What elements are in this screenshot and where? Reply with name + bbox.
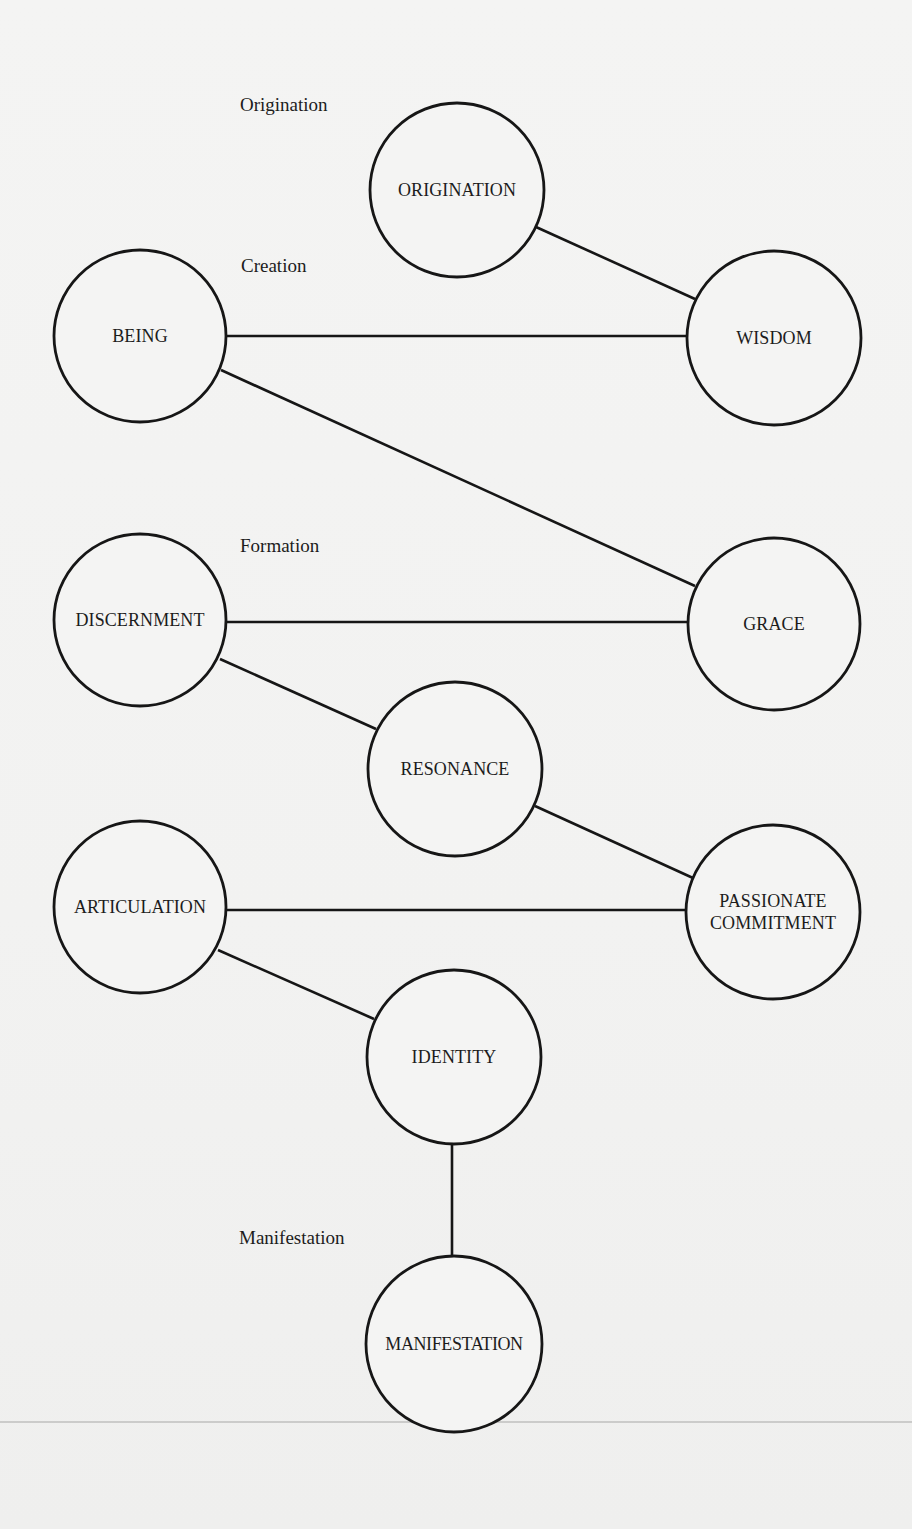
- node-grace: GRACE: [684, 613, 864, 635]
- stage-label-origination: Origination: [240, 94, 328, 116]
- node-articulation: ARTICULATION: [50, 896, 230, 918]
- node-identity: IDENTITY: [364, 1046, 544, 1068]
- node-passionate-commitment: PASSIONATE COMMITMENT: [683, 890, 863, 934]
- node-origination: ORIGINATION: [367, 179, 547, 201]
- edge-resonance-to-passionate-commitment: [535, 806, 693, 878]
- edge-articulation-to-identity: [218, 950, 374, 1019]
- node-discernment: DISCERNMENT: [50, 609, 230, 631]
- node-being: BEING: [50, 325, 230, 347]
- node-manifestation: MANIFESTATION: [364, 1333, 544, 1355]
- stage-label-creation: Creation: [241, 255, 306, 277]
- edge-discernment-to-resonance: [220, 659, 376, 729]
- stage-label-formation: Formation: [240, 535, 319, 557]
- stage-label-manifestation: Manifestation: [239, 1227, 345, 1249]
- node-wisdom: WISDOM: [684, 327, 864, 349]
- node-resonance: RESONANCE: [365, 758, 545, 780]
- edge-origination-to-wisdom: [536, 227, 695, 299]
